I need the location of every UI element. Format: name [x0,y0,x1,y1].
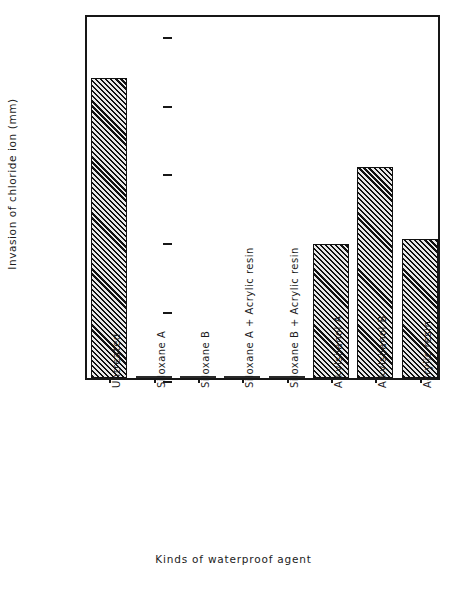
y-tick-mark [163,312,172,314]
x-axis-label: Alkylsilanol A [333,315,344,388]
x-axis-title: Kinds of waterproof agent [0,553,467,565]
x-axis-label: Siloxane B + Acrylic resin [289,247,300,388]
y-tick-mark [163,243,172,245]
x-axis-label: Acrylic resin [422,321,433,388]
x-axis-label: Siloxane B [200,331,211,388]
x-axis-label: Siloxane A [156,331,167,388]
x-axis-label: Alkylsilanol B [377,315,388,388]
y-axis-title: Invasion of chloride ion (mm) [6,4,18,364]
x-axis-label: Untreated [111,333,122,388]
bar-chart-figure: 0510152025 Invasion of chloride ion (mm)… [0,0,467,589]
y-tick-mark [163,174,172,176]
y-tick-mark [163,37,172,39]
x-axis-label: Siloxane A + Acrylic resin [244,247,255,388]
y-tick-mark [163,106,172,108]
bar-alkylsilanol-b [357,167,393,378]
